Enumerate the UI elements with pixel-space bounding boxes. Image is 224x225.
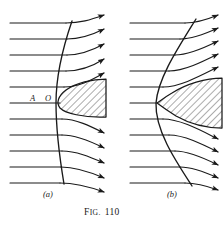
streamline-arrow [60,183,104,192]
panel-a-group: A O (a) [10,15,106,199]
figure-caption: FIG.110 [84,207,120,217]
caption-prefix-rest: IG. [90,208,101,217]
panel-label-b: (b) [167,189,177,199]
figure-110-container: A O (a) [0,0,224,225]
streamline-arrow [67,44,104,55]
streamline-arrow [62,151,104,163]
point-label-O: O [45,93,51,103]
panel-b-group: (b) [130,15,222,199]
panel-a-body-shape [58,79,106,117]
streamline-arrow [61,167,104,178]
streamline-arrow [67,29,104,39]
streamline-arrow [169,54,218,71]
panel-label-a: (a) [43,189,53,199]
caption-line: FIG.110 [84,207,120,217]
panel-b-body-shape [157,78,222,128]
streamline-arrow [62,135,104,148]
streamline-arrow [169,135,218,152]
streamline-arrow [62,119,104,133]
panel-a-streamlines-upstream [10,23,67,183]
streamline-arrow [175,151,218,165]
streamline-arrow [180,28,218,39]
streamline-arrow [66,59,104,71]
figure-drawing-canvas: A O (a) [0,0,224,225]
point-label-A: A [29,93,36,103]
caption-number: 110 [105,207,120,217]
streamline-arrow [185,15,218,23]
